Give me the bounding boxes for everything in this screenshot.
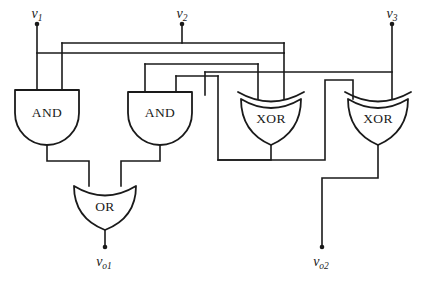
terminal-dot-vo2: [320, 245, 325, 250]
or-gate-label: OR: [95, 199, 115, 214]
terminal-dot-vo1: [103, 245, 108, 250]
circuit-canvas: AND AND XOR XOR OR: [0, 0, 439, 283]
wire-and1-to-or: [47, 140, 89, 186]
xor-gate-2-extra-arc: [345, 92, 411, 102]
output-label-vo2: vo2: [313, 254, 329, 271]
gate-and-2: AND: [128, 92, 192, 145]
input-label-v2: v2: [177, 6, 188, 23]
input-label-v3: v3: [387, 6, 398, 23]
gate-or-1: OR: [74, 186, 136, 230]
wire-and2-to-or: [121, 140, 160, 186]
label-layer: v1 v2 v3 vo1 vo2: [32, 6, 398, 271]
gate-xor-2: XOR: [345, 92, 411, 145]
and-gate-2-label: AND: [145, 105, 175, 120]
xor-gate-1-extra-arc: [238, 92, 304, 102]
xor-gate-2-label: XOR: [363, 111, 393, 126]
output-label-vo1: vo1: [96, 254, 112, 271]
and-gate-1-label: AND: [32, 105, 62, 120]
gate-xor-1: XOR: [238, 92, 304, 145]
xor-gate-1-label: XOR: [256, 111, 286, 126]
logic-circuit-diagram: AND AND XOR XOR OR: [0, 0, 439, 283]
wire-xor2-to-vo2: [322, 143, 378, 247]
input-label-v1: v1: [32, 6, 43, 23]
gate-and-1: AND: [15, 90, 79, 145]
